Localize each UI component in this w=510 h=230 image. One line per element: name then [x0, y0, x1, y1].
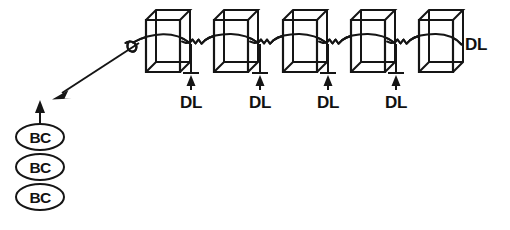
measure-arrow-head-2: [256, 75, 265, 86]
right-linker-label: DL: [465, 35, 487, 54]
binding-complex-1: BC: [16, 124, 64, 150]
diagonal-arrow-head: [52, 90, 72, 100]
linker-measure-4: DL: [385, 44, 407, 112]
measure-arrow-head-3: [324, 75, 333, 86]
linker-measure-2: DL: [249, 44, 271, 112]
measure-arrow-head-4: [392, 75, 401, 86]
measure-arrow-head-1: [187, 75, 196, 86]
binding-complex-2: BC: [16, 154, 64, 180]
linker-measure-1: DL: [180, 44, 202, 112]
diagonal-arrow-shaft: [62, 43, 139, 93]
linker-measure-3: DL: [317, 44, 339, 112]
binding-complex-label-2: BC: [29, 159, 51, 176]
vertical-arrow: [35, 100, 45, 124]
right-linker-callout: DL: [465, 35, 487, 54]
linker-label-3: DL: [317, 93, 339, 112]
linker-label-4: DL: [385, 93, 407, 112]
vertical-arrow-head: [35, 100, 45, 113]
linker-label-1: DL: [180, 93, 202, 112]
figure-canvas: DL DL DL DL DL: [0, 0, 510, 230]
linker-label-2: DL: [249, 93, 271, 112]
binding-complex-3: BC: [16, 184, 64, 210]
binding-complex-label-1: BC: [29, 129, 51, 146]
nucleosome-array-diagram: DL DL DL DL DL: [0, 0, 510, 230]
binding-complex-label-3: BC: [29, 189, 51, 206]
diagonal-arrow: [52, 43, 139, 100]
